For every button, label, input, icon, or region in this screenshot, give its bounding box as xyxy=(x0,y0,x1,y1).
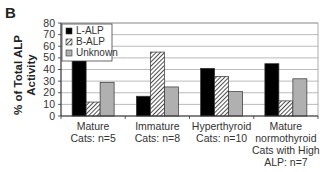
x-category-label: normothyroid xyxy=(255,132,316,144)
bar-unknown xyxy=(229,92,243,116)
legend-label: Unknown xyxy=(76,47,118,58)
bar-b-alp xyxy=(150,52,164,116)
bar-b-alp xyxy=(279,101,293,116)
x-category-label: Cats with High xyxy=(252,144,320,156)
legend-swatch xyxy=(66,28,72,34)
x-category-label: Immature xyxy=(135,120,180,132)
bar-b-alp xyxy=(86,102,100,116)
y-tick-label: 50 xyxy=(43,51,55,63)
x-category-label: Mature xyxy=(270,120,303,132)
x-category-label: Cats: n=5 xyxy=(71,132,116,144)
y-tick-labels: 01020304050607080 xyxy=(43,17,55,122)
bar-chart: 01020304050607080 MatureCats: n=5Immatur… xyxy=(0,0,330,172)
x-category-labels: MatureCats: n=5ImmatureCats: n=8Hyperthy… xyxy=(71,120,320,168)
y-tick-label: 0 xyxy=(49,110,55,122)
y-tick-label: 20 xyxy=(43,86,55,98)
x-category-label: Hyperthyroid xyxy=(192,120,252,132)
bar-unknown xyxy=(164,87,178,116)
y-tick-label: 40 xyxy=(43,63,55,75)
bar-b-alp xyxy=(215,76,229,116)
bar-unknown xyxy=(100,82,114,116)
bars xyxy=(72,52,307,116)
legend-label: L-ALP xyxy=(76,25,104,36)
y-tick-label: 80 xyxy=(43,17,55,29)
y-tick-label: 70 xyxy=(43,28,55,40)
bar-l-alp xyxy=(201,68,215,116)
bar-l-alp xyxy=(265,64,279,116)
bar-l-alp xyxy=(136,96,150,116)
y-tick-label: 30 xyxy=(43,75,55,87)
legend-swatch xyxy=(66,50,72,56)
bar-unknown xyxy=(293,79,307,116)
legend-label: B-ALP xyxy=(76,36,105,47)
x-category-label: Mature xyxy=(77,120,110,132)
x-category-label: ALP: n=7 xyxy=(264,156,308,168)
bar-l-alp xyxy=(72,57,86,116)
y-tick-label: 60 xyxy=(43,40,55,52)
x-category-label: Cats: n=10 xyxy=(196,132,247,144)
legend: L-ALPB-ALPUnknown xyxy=(62,24,118,61)
y-tick-label: 10 xyxy=(43,98,55,110)
x-category-label: Cats: n=8 xyxy=(135,132,180,144)
legend-swatch xyxy=(66,39,72,45)
